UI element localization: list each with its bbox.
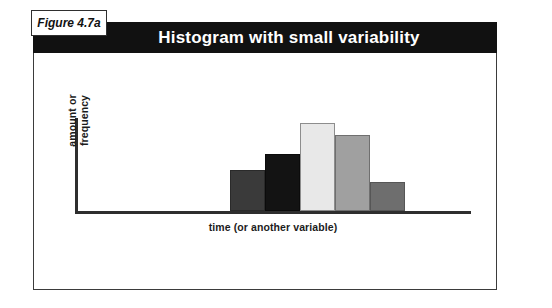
plot-area: amount or frequency time (or another var… <box>33 53 497 290</box>
histogram-bar <box>230 170 265 211</box>
histogram-bars <box>75 113 471 211</box>
histogram-bar <box>370 182 405 211</box>
histogram-bar <box>300 123 335 211</box>
x-axis-label: time (or another variable) <box>75 221 471 233</box>
chart-title: Histogram with small variability <box>110 28 419 48</box>
x-axis-line <box>75 211 471 214</box>
histogram-bar <box>335 135 370 211</box>
figure-number-tag: Figure 4.7a <box>31 10 107 36</box>
histogram-bar <box>265 154 300 211</box>
figure-number-label: Figure 4.7a <box>37 16 100 30</box>
